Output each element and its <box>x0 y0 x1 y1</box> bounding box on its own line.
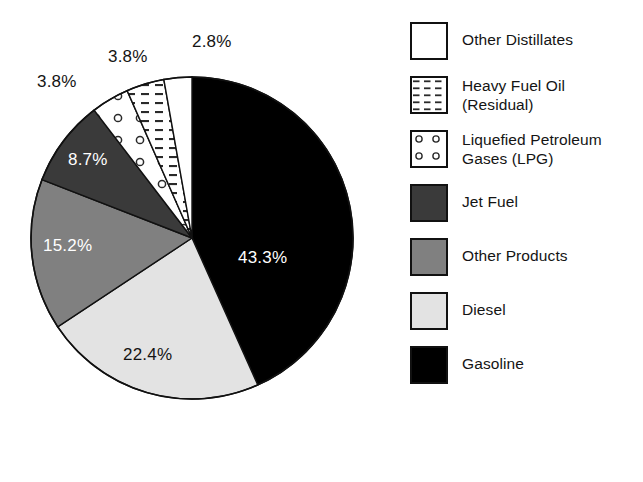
legend-swatch <box>410 184 448 222</box>
pie-label-heavy-fuel-oil: 3.8% <box>108 47 148 67</box>
legend-swatch <box>410 346 448 384</box>
legend-item[interactable]: Jet Fuel <box>410 184 643 222</box>
legend-item-label: Other Distillates <box>462 22 573 49</box>
legend-item[interactable]: Gasoline <box>410 346 643 384</box>
legend-swatch <box>410 238 448 276</box>
legend-item[interactable]: Diesel <box>410 292 643 330</box>
pie-label-gasoline: 43.3% <box>238 248 287 268</box>
legend-swatch <box>410 76 448 114</box>
legend-item-label: Gasoline <box>462 346 524 373</box>
legend-item[interactable]: Other Distillates <box>410 22 643 60</box>
legend-swatch-pattern <box>412 132 446 166</box>
legend-item-label: Heavy Fuel Oil (Residual) <box>462 76 565 114</box>
legend-swatch <box>410 22 448 60</box>
legend-swatch <box>410 292 448 330</box>
chart-legend: Other DistillatesHeavy Fuel Oil (Residua… <box>410 22 643 400</box>
pie-label-diesel: 22.4% <box>123 345 172 365</box>
pie-chart-page: 43.3% 22.4% 15.2% 8.7% 3.8% 3.8% 2.8% Ot… <box>0 0 643 482</box>
legend-item[interactable]: Liquefied Petroleum Gases (LPG) <box>410 130 643 168</box>
legend-item[interactable]: Other Products <box>410 238 643 276</box>
legend-item-label: Liquefied Petroleum Gases (LPG) <box>462 130 602 168</box>
pie-label-lpg: 3.8% <box>37 72 77 92</box>
pie-label-other-distillates: 2.8% <box>192 32 232 52</box>
legend-item-label: Diesel <box>462 292 506 319</box>
pie-label-jet-fuel: 8.7% <box>68 150 108 170</box>
legend-item-label: Jet Fuel <box>462 184 518 211</box>
pie-chart-area: 43.3% 22.4% 15.2% 8.7% 3.8% 3.8% 2.8% <box>0 0 400 482</box>
legend-item[interactable]: Heavy Fuel Oil (Residual) <box>410 76 643 114</box>
legend-swatch-pattern <box>412 78 446 112</box>
pie-label-other-products: 15.2% <box>43 236 92 256</box>
legend-item-label: Other Products <box>462 238 568 265</box>
legend-swatch <box>410 130 448 168</box>
